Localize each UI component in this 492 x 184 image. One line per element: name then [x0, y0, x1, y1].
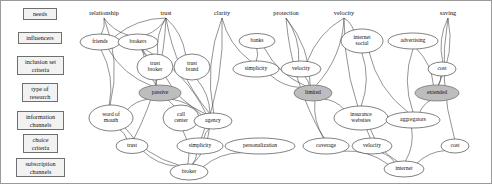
graph-edge [286, 18, 299, 61]
graph-node-aggregators[interactable]: aggregators [386, 112, 440, 128]
graph-edge [127, 99, 147, 109]
graph-edge [104, 18, 128, 35]
node-shape [428, 62, 456, 76]
network-graph: friendsbrokersbanksinternetsocialadverti… [1, 1, 492, 184]
graph-edge [325, 99, 344, 109]
graph-edge [101, 18, 104, 34]
node-shape [415, 85, 459, 101]
category-box: subscription channels [16, 158, 65, 177]
graph-edge [369, 52, 408, 112]
graph-node-call-center[interactable]: callcenter [163, 105, 199, 131]
graph-edge [420, 100, 431, 112]
node-shape [239, 34, 275, 49]
node-shape [137, 54, 173, 80]
diagram-canvas: friendsbrokersbanksinternetsocialadverti… [0, 0, 492, 184]
graph-edge [256, 48, 257, 61]
graph-edge [143, 151, 176, 166]
graph-node-internet[interactable]: internet [384, 161, 424, 177]
graph-edge [101, 50, 111, 105]
column-label: trust [160, 9, 171, 16]
graph-edge [305, 77, 309, 86]
node-shape [89, 105, 133, 131]
node-shape [225, 138, 295, 154]
node-shape [352, 138, 392, 154]
graph-edge [382, 153, 395, 162]
node-shape [386, 112, 440, 128]
graph-edge [315, 101, 325, 138]
node-shape [116, 139, 148, 154]
graph-node-extended[interactable]: extended [415, 85, 459, 101]
graph-node-velocity-top[interactable]: velocity [281, 61, 321, 77]
node-shape [233, 61, 279, 77]
graph-edge [286, 18, 324, 138]
category-box: influencers [18, 32, 62, 44]
category-box: inclusion set criteria [17, 56, 64, 75]
graph-node-simplicity-top[interactable]: simplicity [233, 61, 279, 77]
category-box: information channels [17, 111, 64, 130]
graph-node-cost-top[interactable]: cost [428, 62, 456, 76]
column-label-layer: relationshiptrustclarityprotectionveloci… [89, 9, 457, 16]
graph-node-limited[interactable]: limited [294, 85, 332, 101]
node-shape [294, 85, 332, 101]
node-shape [80, 34, 120, 50]
category-box: needs [23, 8, 57, 20]
node-shape [118, 34, 158, 50]
node-shape [303, 138, 349, 154]
graph-edge [146, 18, 166, 35]
column-label: clarity [214, 9, 231, 16]
graph-edge [307, 18, 344, 62]
graph-node-trust-bottom[interactable]: trust [116, 139, 148, 154]
graph-node-friends[interactable]: friends [80, 34, 120, 50]
category-box: choice criteria [23, 134, 58, 153]
node-shape [388, 33, 438, 49]
graph-edge [407, 49, 413, 112]
node-shape [281, 61, 321, 77]
graph-node-simplicity-bottom[interactable]: simplicity [177, 138, 223, 154]
graph-edge [104, 18, 114, 105]
node-shape [194, 113, 232, 129]
graph-edge [361, 53, 366, 106]
graph-edge [203, 153, 242, 167]
column-label: velocity [334, 9, 355, 16]
graph-edge [166, 18, 186, 55]
graph-edge [405, 128, 412, 161]
graph-edge [120, 130, 127, 139]
node-shape [163, 105, 199, 131]
graph-node-passive[interactable]: passive [139, 85, 181, 101]
graph-edge [344, 18, 354, 30]
graph-node-cost-bottom[interactable]: cost [441, 139, 469, 153]
graph-edge [210, 18, 222, 113]
graph-node-agency[interactable]: agency [194, 113, 232, 129]
node-shape [139, 85, 181, 101]
graph-node-advertising[interactable]: advertising [388, 33, 438, 49]
node-shape [174, 54, 210, 80]
column-label: saving [440, 9, 457, 16]
graph-node-coverage[interactable]: coverage [303, 138, 349, 154]
graph-node-word-of-mouth[interactable]: word ofmouth [89, 105, 133, 131]
graph-node-insurance-websites[interactable]: insurancewebsites [334, 106, 388, 130]
node-shape [170, 164, 208, 180]
node-shape [441, 139, 469, 153]
node-shape [177, 138, 223, 154]
graph-node-brokers[interactable]: brokers [118, 34, 158, 50]
graph-node-internet-social[interactable]: internetsocial [341, 29, 383, 53]
graph-node-trust-brand[interactable]: trustbrand [174, 54, 210, 80]
graph-node-broker[interactable]: broker [170, 164, 208, 180]
graph-node-trust-broker[interactable]: trustbroker [137, 54, 173, 80]
column-label: relationship [89, 9, 119, 16]
column-label: protection [273, 9, 299, 16]
category-box: type of research [22, 83, 58, 102]
graph-edge [444, 18, 455, 139]
node-shape [334, 106, 388, 130]
graph-node-personalization[interactable]: personalization [225, 138, 295, 154]
graph-node-banks[interactable]: banks [239, 34, 275, 49]
node-shape [384, 161, 424, 177]
node-shape [341, 29, 383, 53]
graph-node-velocity-bottom[interactable]: velocity [352, 138, 392, 154]
graph-edge [417, 151, 445, 164]
